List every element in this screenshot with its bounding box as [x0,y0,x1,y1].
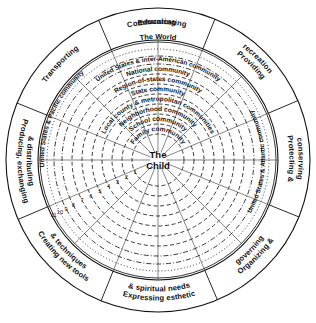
center-label-line1: The [150,149,167,160]
ring-number-9: 9 [65,206,68,212]
band-sector-label-producing-exchanging-distributing: & distributing [25,136,37,188]
center-label-layer: The Child [146,149,170,171]
ring-number-1: 1 [133,169,136,175]
band-sector-label-expressing-esthetic-spiritual-needs: & spiritual needs [127,281,190,294]
ring-number-11: 11 [51,212,57,218]
diagram-canvas: Family communitySchool communityNeighbor… [0,0,316,323]
ring-number-8: 8 [72,202,75,208]
ring-number-5: 5 [98,188,101,194]
band-sector-label-protecting-conserving: Protecting & [285,135,296,184]
ring-number-2: 2 [125,174,128,180]
ring-number-3: 3 [116,179,119,185]
band-sector-label-creating-new-tools-techniques: Creating new tools [36,229,91,283]
band-sector-label-communicating: Communicating [126,17,187,29]
expanding-communities-diagram: Family communitySchool communityNeighbor… [0,0,316,323]
ring-number-4: 4 [107,183,110,189]
ring-number-6: 6 [89,193,92,199]
band-sector-label-protecting-conserving: conserving [295,137,306,181]
ring-labels-layer: Family communitySchool communityNeighbor… [38,32,266,214]
ring-number-7: 7 [81,197,84,203]
community-ring-label-11: The World [139,32,177,42]
community-ring-label-9: United States & Atlantic community [245,108,266,214]
center-label-line2: Child [146,160,170,171]
ring-number-10: 10 [57,209,63,215]
